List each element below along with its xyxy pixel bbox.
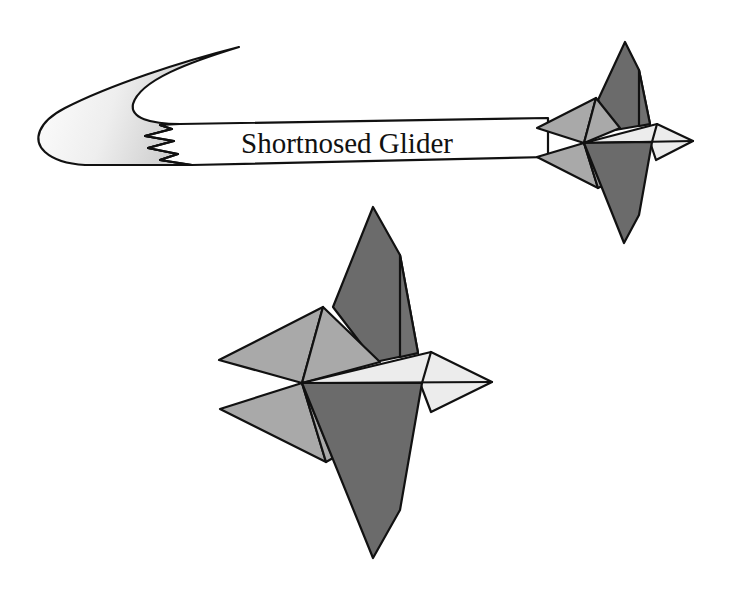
small-glider-upper-fin-fold: [639, 70, 650, 126]
small-glider-keel: [584, 142, 652, 243]
small-glider: [537, 42, 693, 243]
large-glider: [219, 207, 492, 558]
diagram-canvas: Shortnosed Glider: [0, 0, 734, 599]
large-glider-keel: [302, 383, 422, 558]
banner-title: Shortnosed Glider: [241, 127, 453, 159]
large-glider-upper-fin-fold: [400, 255, 418, 357]
banner: Shortnosed Glider: [38, 47, 548, 165]
